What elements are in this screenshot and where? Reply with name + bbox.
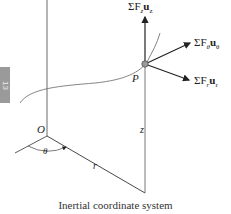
r-label: r xyxy=(93,161,97,171)
force-r-label: ΣFrur xyxy=(194,75,218,89)
diagram-drawing xyxy=(0,0,231,214)
origin-label: O xyxy=(37,124,45,135)
figure-caption: Inertial coordinate system xyxy=(0,199,231,211)
force-r-arrow xyxy=(145,64,189,80)
particle-P xyxy=(142,61,148,67)
point-label: P xyxy=(132,73,139,84)
cylindrical-coordinates-figure: 13 ΣFzuz ΣFθuθ ΣFrur P O θ r z Inertial … xyxy=(0,0,231,214)
trajectory-curve xyxy=(20,33,160,103)
force-theta-label: ΣFθuθ xyxy=(194,37,219,51)
theta-label: θ xyxy=(43,147,47,156)
force-z-label: ΣFzuz xyxy=(128,1,153,15)
z-label: z xyxy=(140,125,144,135)
